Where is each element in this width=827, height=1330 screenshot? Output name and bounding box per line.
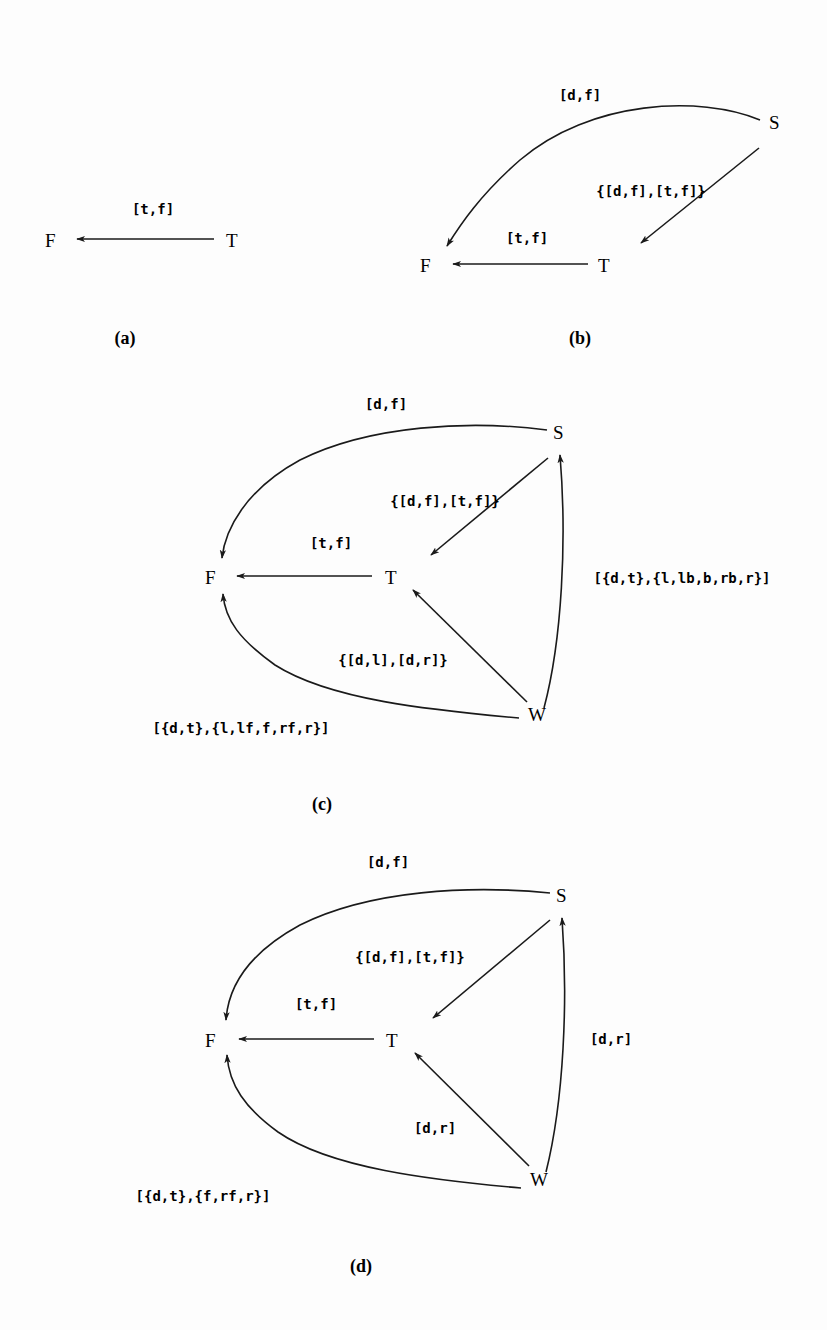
- edge-label-t-f: [t,f]: [506, 230, 548, 246]
- edge-label-t-f: [t,f]: [310, 535, 352, 551]
- caption-d: (d): [350, 1256, 372, 1277]
- node-s: S: [553, 422, 564, 443]
- edge-label-t-f: [t,f]: [132, 201, 174, 217]
- edge-label-s-t: {[d,f],[t,f]}: [390, 493, 500, 509]
- caption-a: (a): [115, 328, 136, 349]
- node-w: W: [528, 704, 546, 725]
- node-w: W: [530, 1169, 548, 1190]
- panel-d: S F T W [d,f] {[d,f],[t,f]} [t,f] [d,r] …: [136, 854, 633, 1277]
- node-f: F: [420, 255, 431, 276]
- node-s: S: [769, 112, 780, 133]
- edge-label-w-f: [{d,t},{f,rf,r}]: [136, 1188, 271, 1204]
- node-f: F: [205, 1030, 216, 1051]
- node-t: T: [385, 567, 397, 588]
- edge-label-w-s: [d,r]: [590, 1031, 632, 1047]
- edge-w-to-t: [415, 1053, 529, 1166]
- panel-b: S F T [d,f] {[d,f],[t,f]} [t,f] (b): [420, 87, 780, 349]
- edge-s-to-f: [222, 425, 547, 558]
- edge-w-to-s: [544, 455, 563, 708]
- edge-label-s-f: [d,f]: [365, 396, 407, 412]
- edge-label-w-t: [d,r]: [414, 1120, 456, 1136]
- edge-label-s-t: {[d,f],[t,f]}: [355, 949, 465, 965]
- edge-label-s-t: {[d,f],[t,f]}: [596, 183, 706, 199]
- graph-figure: F T [t,f] (a) S F T [d,f] {[d,f],[t,f]} …: [0, 0, 827, 1330]
- edge-s-to-f: [447, 106, 760, 246]
- caption-b: (b): [569, 328, 591, 349]
- panel-a: F T [t,f] (a): [45, 201, 238, 349]
- edge-w-to-f: [227, 1055, 521, 1188]
- node-f: F: [205, 567, 216, 588]
- node-s: S: [556, 885, 567, 906]
- panel-c: S F T W [d,f] {[d,f],[t,f]} [t,f] [{d,t}…: [152, 396, 770, 815]
- node-t: T: [386, 1030, 398, 1051]
- edge-label-w-t: {[d,l],[d,r]}: [338, 652, 448, 668]
- edge-label-t-f: [t,f]: [295, 996, 337, 1012]
- edge-w-to-s: [546, 918, 565, 1172]
- node-f: F: [45, 230, 56, 251]
- node-t: T: [598, 255, 610, 276]
- edge-label-w-s: [{d,t},{l,lb,b,rb,r}]: [593, 570, 770, 586]
- edge-s-to-t: [433, 920, 550, 1018]
- caption-c: (c): [312, 794, 332, 815]
- edge-label-s-f: [d,f]: [367, 854, 409, 870]
- edge-w-to-t: [413, 590, 527, 702]
- node-t: T: [226, 230, 238, 251]
- edge-label-s-f: [d,f]: [559, 87, 601, 103]
- edge-label-w-f: [{d,t},{l,lf,f,rf,r}]: [152, 720, 329, 736]
